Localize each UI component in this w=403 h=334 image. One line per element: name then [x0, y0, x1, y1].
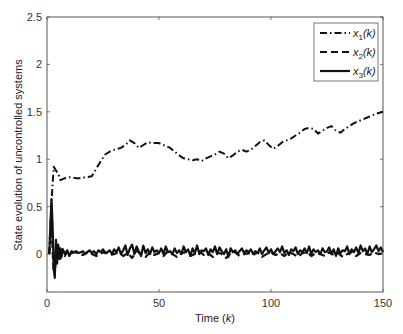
y-tick-label: 1.5 [27, 106, 42, 118]
x-tick-label: 100 [262, 297, 280, 309]
x-tick-label: 50 [153, 297, 165, 309]
y-tick-label: 2.5 [27, 11, 42, 23]
y-tick-label: 0 [36, 248, 42, 260]
legend: x1(k)x2(k)x3(k) [314, 23, 378, 81]
line-chart: 05010015000.511.522.5 Time (k) State evo… [0, 0, 403, 334]
y-tick-label: 0.5 [27, 201, 42, 213]
y-tick-label: 2 [36, 58, 42, 70]
x-axis-label: Time (k) [195, 312, 235, 324]
y-tick-label: 1 [36, 153, 42, 165]
x-tick-label: 150 [374, 297, 392, 309]
y-axis-label: State evolution of uncontrolled systems [12, 59, 24, 251]
x-tick-label: 0 [44, 297, 50, 309]
